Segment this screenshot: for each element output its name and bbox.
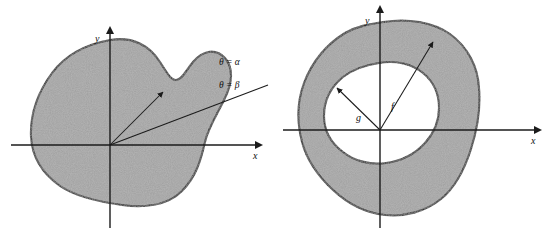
- right-diagram-panel: x y g f: [275, 0, 549, 240]
- ray-theta-alpha-label: θ = α: [219, 57, 241, 67]
- radius-arrow-g: g: [337, 88, 380, 130]
- radius-arrow-g-label: g: [356, 112, 361, 123]
- y-axis-label: y: [364, 15, 370, 26]
- radius-arrow-g-line: [337, 88, 380, 130]
- y-axis-label: y: [94, 33, 100, 44]
- x-axis-label: x: [252, 150, 258, 161]
- ray-theta-beta-label: θ = β: [219, 80, 240, 90]
- x-axis-label: x: [530, 135, 536, 146]
- polar-area-figure: x y θ = α θ = β: [0, 0, 549, 240]
- left-diagram-panel: x y θ = α θ = β: [0, 0, 275, 240]
- right-shaded-region: [298, 21, 479, 216]
- left-shaded-region: [31, 39, 231, 206]
